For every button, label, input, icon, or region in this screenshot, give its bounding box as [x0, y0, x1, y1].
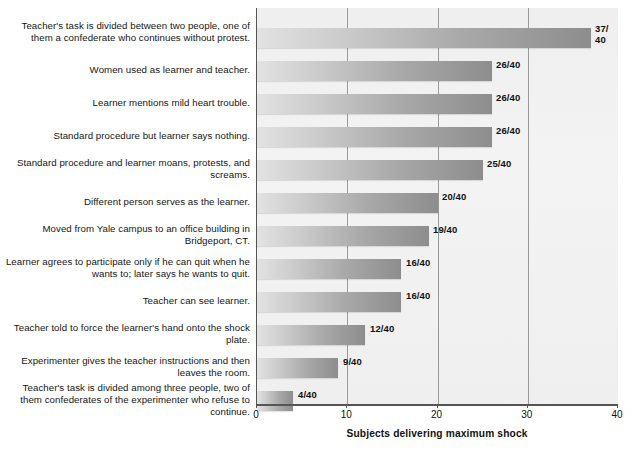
x-tick-10: [346, 404, 347, 408]
x-axis-title: Subjects delivering maximum shock: [256, 428, 618, 439]
bar-row: 9/40: [257, 352, 618, 385]
bar-chart: Teacher's task is divided between two pe…: [0, 0, 630, 453]
bar-row: 25/40: [257, 154, 618, 187]
bar-rows: 37/ 40 26/40 26/40 26/40 25/40 20/40: [257, 8, 618, 404]
x-tick-0: [256, 404, 257, 408]
bar: [257, 127, 492, 147]
category-label: Teacher told to force the learner's hand…: [0, 322, 250, 346]
bar-value-label: 37/ 40: [595, 24, 609, 45]
bar: [257, 226, 429, 246]
bar: [257, 61, 492, 81]
bar-value-label: 16/40: [406, 258, 430, 269]
plot-area: 37/ 40 26/40 26/40 26/40 25/40 20/40: [256, 8, 618, 404]
bar-row: 26/40: [257, 121, 618, 154]
bar: [257, 325, 365, 345]
bar: [257, 292, 401, 312]
bar: [257, 28, 591, 48]
bar-row: 37/ 40: [257, 22, 618, 55]
bar: [257, 160, 483, 180]
bar-row: 20/40: [257, 187, 618, 220]
bar-row: 19/40: [257, 220, 618, 253]
x-tick-30: [527, 404, 528, 408]
bar-value-label: 25/40: [487, 159, 511, 170]
category-label: Learner mentions mild heart trouble.: [0, 97, 250, 109]
bar-row: 16/40: [257, 253, 618, 286]
bar: [257, 94, 492, 114]
category-label: Experimenter gives the teacher instructi…: [0, 355, 250, 379]
bar-value-label: 19/40: [433, 225, 457, 236]
bar-row: 16/40: [257, 286, 618, 319]
bar-value-label: 26/40: [496, 60, 520, 71]
bar: [257, 358, 338, 378]
category-label: Women used as learner and teacher.: [0, 64, 250, 76]
bar-row: 12/40: [257, 319, 618, 352]
category-label: Teacher can see learner.: [0, 295, 250, 307]
category-axis-labels: Teacher's task is divided between two pe…: [0, 8, 250, 404]
bar: [257, 259, 401, 279]
x-tick-label: 0: [253, 409, 259, 420]
x-tick-label: 10: [341, 409, 352, 420]
bar-value-label: 4/40: [298, 390, 317, 401]
x-tick-20: [437, 404, 438, 408]
bar-row: 26/40: [257, 88, 618, 121]
x-tick-label: 20: [431, 409, 442, 420]
category-label: Standard procedure but learner says noth…: [0, 130, 250, 142]
category-label: Learner agrees to participate only if he…: [0, 256, 250, 280]
x-tick-label: 30: [521, 409, 532, 420]
category-label: Moved from Yale campus to an office buil…: [0, 223, 250, 247]
x-tick-label: 40: [611, 409, 622, 420]
bar-value-label: 26/40: [496, 126, 520, 137]
category-label: Teacher's task is divided between two pe…: [0, 20, 250, 44]
category-label: Standard procedure and learner moans, pr…: [0, 157, 250, 181]
bar-value-label: 26/40: [496, 93, 520, 104]
bar-value-label: 12/40: [370, 324, 394, 335]
bar-value-label: 20/40: [442, 192, 466, 203]
bar-value-label: 9/40: [343, 357, 362, 368]
category-label: Teacher's task is divided among three pe…: [0, 382, 250, 418]
category-label: Different person serves as the learner.: [0, 196, 250, 208]
bar-value-label: 16/40: [406, 291, 430, 302]
bar: [257, 193, 438, 213]
bar-row: 26/40: [257, 55, 618, 88]
bar: [257, 391, 293, 411]
x-tick-40: [617, 404, 618, 408]
